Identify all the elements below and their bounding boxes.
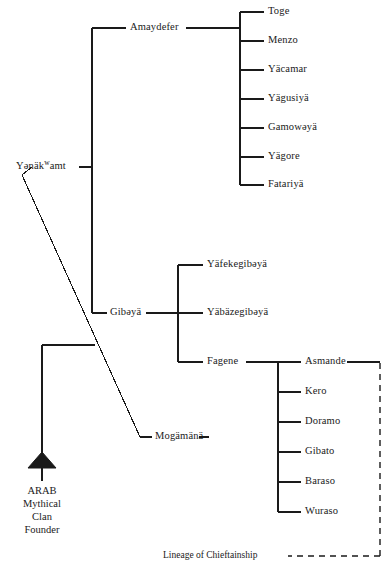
node-doramo[interactable]: Doramo xyxy=(305,416,340,427)
node-fagene[interactable]: Fagene xyxy=(207,356,238,367)
node-yagusiya[interactable]: Yägusiyä xyxy=(268,93,309,104)
node-asmande[interactable]: Asmande xyxy=(305,356,346,367)
node-fatariya[interactable]: Fatariyä xyxy=(268,179,304,190)
node-gibato[interactable]: Gibato xyxy=(305,446,334,457)
founder-triangle-icon xyxy=(28,452,56,468)
lineage-diagram: Yənäkwamt Amaydefer Gibəyä Mogämänä Toge… xyxy=(0,0,390,571)
founder-label: ARAB Mythical Clan Founder xyxy=(2,484,82,536)
node-kero[interactable]: Kero xyxy=(305,386,327,397)
node-yagore[interactable]: Yägore xyxy=(268,151,300,162)
node-yacamar[interactable]: Yäcamar xyxy=(268,64,307,75)
node-menzo[interactable]: Menzo xyxy=(268,35,298,46)
node-mogamana[interactable]: Mogämänä xyxy=(155,431,203,442)
node-yabazegibeya[interactable]: Yäbäzegibəyä xyxy=(207,307,268,318)
node-wuraso[interactable]: Wuraso xyxy=(305,506,338,517)
node-gibeya[interactable]: Gibəyä xyxy=(110,307,141,318)
node-yenakwamt[interactable]: Yənäkwamt xyxy=(16,161,66,172)
node-toge[interactable]: Toge xyxy=(268,6,289,17)
node-gamoweya[interactable]: Gamowəyä xyxy=(268,122,317,133)
node-yenakwamt-suffix: amt xyxy=(50,160,66,171)
node-yenakwamt-prefix: Yənäk xyxy=(16,160,44,171)
node-baraso[interactable]: Baraso xyxy=(305,476,335,487)
node-amaydefer[interactable]: Amaydefer xyxy=(130,22,179,33)
node-yafekegibeya[interactable]: Yäfekegibəyä xyxy=(207,259,267,270)
chieftainship-legend-label: Lineage of Chieftainship xyxy=(163,551,257,561)
